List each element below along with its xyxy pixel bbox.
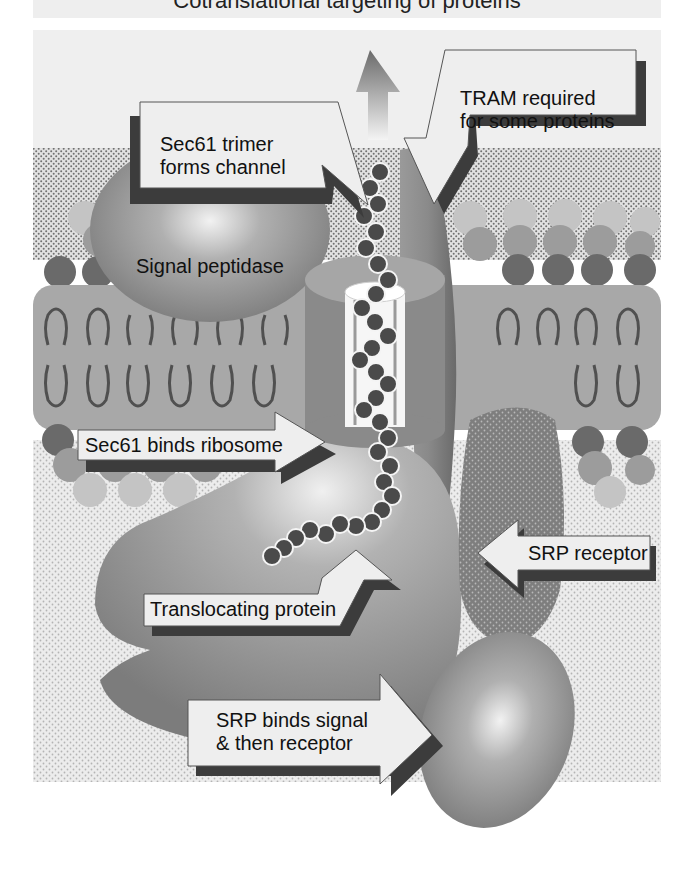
label-sec61-trimer: Sec61 trimer forms channel bbox=[160, 133, 286, 179]
label-sec61-binds-ribosome: Sec61 binds ribosome bbox=[85, 434, 283, 457]
label-srp-binds: SRP binds signal & then receptor bbox=[216, 709, 368, 755]
label-srp-receptor: SRP receptor bbox=[528, 542, 648, 565]
label-translocating-protein: Translocating protein bbox=[150, 598, 336, 621]
label-signal-peptidase: Signal peptidase bbox=[136, 255, 284, 278]
label-tram: TRAM required for some proteins bbox=[460, 87, 615, 133]
